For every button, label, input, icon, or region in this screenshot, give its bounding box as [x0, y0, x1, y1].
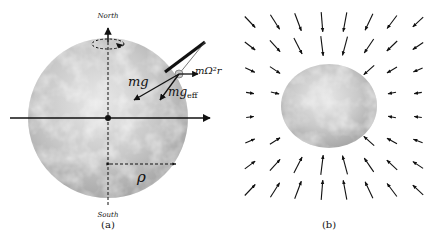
panel-b: (b) — [245, 12, 423, 230]
field-vector-arrow — [387, 160, 397, 170]
field-vector-arrow — [245, 17, 255, 28]
caption-b: (b) — [322, 219, 336, 230]
field-vector-arrow — [387, 16, 397, 29]
field-vector-arrow — [364, 65, 374, 74]
field-vector-arrow — [270, 183, 279, 197]
field-vector-arrow — [414, 92, 422, 93]
field-vector-arrow — [388, 116, 396, 117]
field-vector-arrow — [413, 185, 423, 195]
field-vector-arrow — [388, 92, 396, 94]
field-vector-arrow — [364, 158, 373, 172]
field-vector-arrow — [270, 159, 280, 170]
field-vector-arrow — [343, 180, 347, 199]
field-vector-arrow — [343, 37, 348, 56]
field-vector-arrow — [270, 15, 279, 29]
field-vector-arrow — [387, 184, 397, 197]
field-vector-arrow — [365, 14, 373, 30]
panel-a: North South mg mgeff mΩ²r ρ (a) — [10, 12, 223, 230]
field-vector-arrow — [295, 181, 302, 199]
field-vector-arrow — [270, 40, 280, 51]
mgeff-label: mgeff — [168, 85, 199, 100]
centrifugal-label: mΩ²r — [195, 65, 223, 76]
north-label: North — [96, 12, 118, 20]
field-vector-arrow — [414, 117, 422, 118]
field-vector-arrow — [246, 92, 254, 93]
field-vector-arrow — [413, 17, 423, 27]
field-vector-arrow — [365, 182, 373, 198]
field-vector-arrow — [364, 136, 374, 145]
field-vector-arrow — [321, 155, 323, 175]
field-vector-arrow — [294, 157, 302, 173]
field-vector-arrow — [413, 68, 422, 72]
field-vector-arrow — [387, 138, 397, 144]
caption-a: (a) — [101, 219, 115, 230]
field-vector-arrow — [343, 156, 348, 175]
field-vector-arrow — [245, 42, 255, 50]
field-vector-arrow — [245, 185, 255, 196]
field-vector-arrow — [245, 161, 255, 169]
figure: North South mg mgeff mΩ²r ρ (a) (b) — [0, 0, 429, 238]
field-vector-arrow — [294, 38, 302, 54]
south-label: South — [98, 211, 119, 219]
mg-label: mg — [128, 74, 149, 89]
field-vector-arrow — [413, 139, 422, 143]
field-vector-arrow — [270, 67, 280, 74]
field-vector-arrow — [321, 36, 323, 56]
field-vector-arrow — [321, 180, 323, 200]
field-vector-arrow — [271, 92, 279, 94]
field-vector-arrow — [343, 12, 347, 31]
rho-label: ρ — [136, 168, 146, 186]
field-vector-arrow — [245, 139, 254, 143]
field-vector-arrow — [246, 117, 254, 118]
center-point — [105, 115, 111, 121]
field-vector-arrow — [321, 12, 323, 32]
field-vector-arrow — [245, 68, 255, 72]
field-vector-arrow — [413, 162, 423, 169]
field-vector-arrow — [270, 138, 280, 145]
field-vector-arrow — [295, 13, 302, 31]
field-vector-arrow — [387, 67, 397, 73]
earth-image-b — [281, 64, 377, 148]
field-vector-arrow — [413, 43, 423, 50]
field-vector-arrow — [364, 39, 373, 53]
field-vector-arrow — [387, 41, 397, 51]
